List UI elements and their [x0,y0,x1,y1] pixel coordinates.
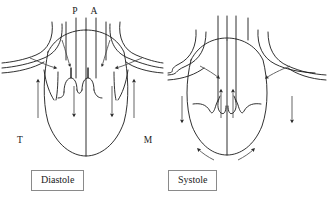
av-valve-closed-right-systole [236,100,261,113]
flow-arrow-inflow-right-systole [266,66,290,78]
inflow-vessels-right-systole [258,30,326,80]
cardiac-cycle-figure: P A T M [0,0,329,206]
label-pulmonary-trunk: P [72,6,77,16]
flow-arrow-inflow-left-systole [200,66,219,78]
label-mitral: M [144,135,153,145]
av-valve-open-right-diastole [114,70,128,100]
panel-systole [168,16,326,160]
label-tricuspid: T [17,135,23,145]
semilunar-valves-closed-diastole [58,68,102,98]
caption-diastole: Diastole [31,170,84,191]
inflow-vessels-left-systole [168,30,206,80]
av-valve-open-left-diastole [44,70,58,100]
inflow-vessels-right-diastole [110,22,163,73]
av-valve-closed-left-systole [193,100,218,113]
flow-arrows-systole [182,66,292,160]
caption-systole: Systole [168,170,217,191]
flow-arrow-inflow-right [116,58,142,68]
inflow-vessels-left-diastole [2,22,62,73]
great-vessels-systole [218,16,248,100]
flow-arrow-contraction-right [238,149,254,160]
panel-diastole: P A T M [2,6,163,156]
label-aorta: A [91,6,98,16]
